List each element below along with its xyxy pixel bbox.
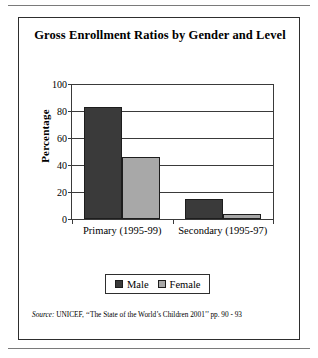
- source-text: UNICEF, ‘‘The State of the World’s Child…: [56, 310, 242, 319]
- legend-entry-female: Female: [158, 279, 201, 290]
- source-note: Source: UNICEF, ‘‘The State of the World…: [32, 310, 294, 320]
- y-tick-mark: [68, 165, 72, 166]
- gridline: [72, 84, 273, 85]
- bar-female-2: [223, 214, 261, 219]
- x-tick-mark: [72, 219, 73, 224]
- y-tick-label: 100: [52, 79, 67, 90]
- y-tick-label: 40: [57, 160, 67, 171]
- source-label: Source:: [32, 310, 54, 319]
- y-tick-label: 60: [57, 133, 67, 144]
- figure-frame: Gross Enrollment Ratios by Gender and Le…: [18, 17, 300, 340]
- plot-area: 020406080100 Primary (1995-99)Secondary …: [71, 84, 273, 220]
- bottom-divider-rule: [8, 348, 310, 349]
- legend-swatch-male-icon: [115, 280, 123, 288]
- bar-female-1: [122, 157, 160, 219]
- legend-entry-male: Male: [115, 279, 149, 290]
- x-tick-mark: [273, 219, 274, 224]
- x-tick-mark: [173, 219, 174, 224]
- y-tick-label: 0: [62, 214, 67, 225]
- x-category-label: Secondary (1995-97): [178, 225, 267, 236]
- y-tick-mark: [68, 111, 72, 112]
- legend-label: Male: [127, 279, 149, 290]
- bar-male-1: [84, 107, 122, 219]
- legend-label: Female: [170, 279, 201, 290]
- y-tick-mark: [68, 138, 72, 139]
- chart-title: Gross Enrollment Ratios by Gender and Le…: [33, 27, 287, 43]
- plot-right-edge: [273, 84, 274, 219]
- y-tick-label: 20: [57, 187, 67, 198]
- y-tick-mark: [68, 84, 72, 85]
- y-tick-mark: [68, 192, 72, 193]
- y-axis-title: Percentage: [39, 86, 51, 186]
- bar-male-2: [185, 199, 223, 219]
- plot-block: Percentage 020406080100 Primary (1995-99…: [19, 66, 301, 252]
- top-divider-rule: [8, 5, 310, 6]
- legend-swatch-female-icon: [158, 280, 166, 288]
- x-category-label: Primary (1995-99): [83, 225, 161, 236]
- y-tick-label: 80: [57, 106, 67, 117]
- chart-legend: MaleFemale: [105, 274, 210, 294]
